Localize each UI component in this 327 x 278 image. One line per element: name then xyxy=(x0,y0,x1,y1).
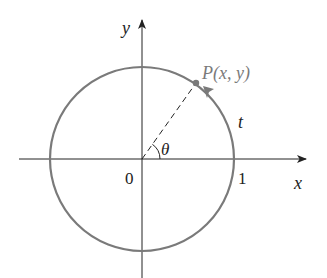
x-axis-label: x xyxy=(293,173,302,193)
unit-circle-diagram: y x P(x, y) t θ 0 1 xyxy=(0,0,327,278)
unit-label: 1 xyxy=(238,169,247,188)
y-axis-label: y xyxy=(120,18,130,38)
angle-arc xyxy=(152,144,160,159)
point-label: P(x, y) xyxy=(201,63,250,84)
arc-length-label: t xyxy=(238,112,244,132)
point-p xyxy=(193,80,199,86)
angle-label: θ xyxy=(161,140,169,159)
origin-label: 0 xyxy=(125,169,134,188)
